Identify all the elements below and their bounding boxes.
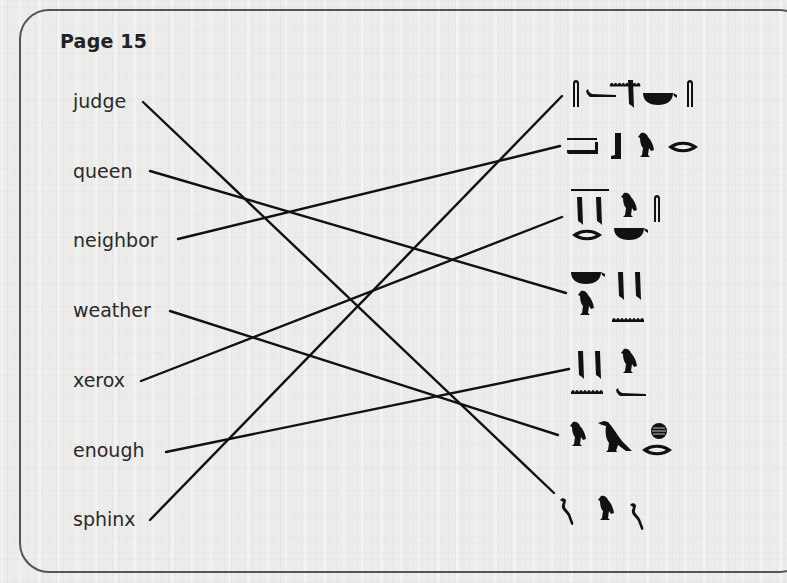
line-enough: [166, 369, 569, 452]
line-neighbor: [178, 146, 560, 239]
hieroglyph-group-3: [571, 189, 660, 240]
hieroglyph-group-4: [571, 272, 644, 322]
line-sphinx: [150, 96, 562, 520]
hieroglyph-group-2: [567, 133, 698, 159]
line-queen: [150, 171, 566, 293]
line-weather: [170, 311, 558, 435]
hieroglyph-group-5: [571, 349, 646, 396]
hieroglyph-group-7: [560, 496, 643, 530]
hieroglyph-group-1: [573, 80, 693, 108]
hieroglyph-group-6: [570, 421, 672, 455]
line-xerox: [141, 217, 562, 381]
match-lines: [0, 0, 787, 583]
line-judge: [143, 102, 554, 493]
